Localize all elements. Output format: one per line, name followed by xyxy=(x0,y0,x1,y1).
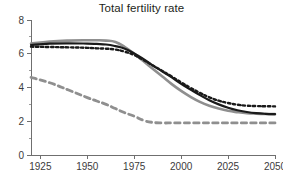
chart-plot-area: 02468 192519501975200020252050 xyxy=(0,0,283,184)
y-axis: 02468 xyxy=(18,15,31,161)
y-tick-label: 6 xyxy=(18,48,24,59)
x-tick-label: 1925 xyxy=(29,161,52,172)
chart-container: Total fertility rate 02468 1925195019752… xyxy=(0,0,283,184)
series-line-gray-solid xyxy=(31,40,275,114)
x-tick-label: 2025 xyxy=(217,161,240,172)
x-tick-label: 2000 xyxy=(170,161,193,172)
series-line-gray-dashed xyxy=(31,77,275,123)
x-tick-label: 1975 xyxy=(123,161,146,172)
x-tick-label: 2050 xyxy=(264,161,283,172)
series-line-black-dotted xyxy=(31,47,275,107)
x-tick-label: 1950 xyxy=(76,161,99,172)
y-tick-label: 8 xyxy=(18,15,24,26)
series-line-black-solid xyxy=(31,43,275,114)
y-tick-label: 4 xyxy=(18,82,24,93)
y-tick-label: 0 xyxy=(18,150,24,161)
series-lines xyxy=(31,40,275,123)
x-axis: 192519501975200020252050 xyxy=(29,155,283,172)
y-tick-label: 2 xyxy=(18,116,24,127)
